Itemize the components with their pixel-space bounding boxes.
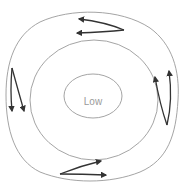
arrow-icon [60, 174, 106, 175]
arrow-icon [167, 71, 171, 125]
arrow-icon [11, 68, 12, 111]
low-pressure-diagram: Low [0, 0, 189, 186]
wind-arrows-right [155, 71, 171, 125]
arrow-icon [12, 68, 24, 111]
arrow-icon [79, 19, 124, 30]
arrow-icon [155, 77, 167, 125]
arrow-icon [77, 30, 124, 33]
wind-arrows-left [11, 68, 24, 111]
arrow-icon [60, 161, 101, 174]
wind-arrows-bottom [60, 161, 106, 175]
center-label: Low [84, 96, 103, 107]
wind-arrows-top [77, 19, 124, 33]
diagram-svg: Low [0, 0, 189, 186]
